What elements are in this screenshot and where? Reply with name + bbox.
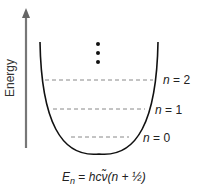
level-value: 0 xyxy=(163,131,170,145)
level-value: 1 xyxy=(175,103,182,117)
level-label-n0: n = 0 xyxy=(143,131,170,145)
energy-axis-label: Energy xyxy=(3,56,17,100)
level-var: n xyxy=(155,103,162,117)
continuation-dot xyxy=(96,51,100,55)
level-eq: = xyxy=(150,131,164,145)
energy-formula: En = hcν̃(n + ½) xyxy=(62,170,146,186)
level-value: 2 xyxy=(183,73,190,87)
level-var: n xyxy=(163,73,170,87)
formula-lhs: E xyxy=(62,170,70,184)
continuation-dot xyxy=(96,42,100,46)
arrowhead-icon xyxy=(22,8,30,18)
level-var: n xyxy=(143,131,150,145)
level-label-n1: n = 1 xyxy=(155,103,182,117)
level-eq: = xyxy=(170,73,184,87)
continuation-dot xyxy=(96,60,100,64)
formula-rhs: hcν̃(n + ½) xyxy=(89,170,146,184)
potential-diagram xyxy=(0,0,199,192)
formula-equals: = xyxy=(75,170,89,184)
level-label-n2: n = 2 xyxy=(163,73,190,87)
level-eq: = xyxy=(162,103,176,117)
